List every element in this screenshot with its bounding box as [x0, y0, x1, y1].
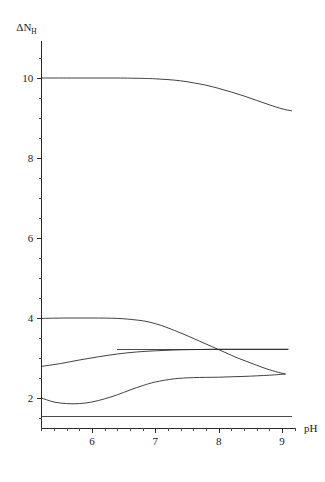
- y-tick-label: 2: [28, 392, 34, 404]
- chart-plot-area: 2468106789ΔNHpH: [0, 0, 325, 482]
- axes-group: [41, 41, 296, 428]
- y-axis-label-base: ΔN: [16, 21, 31, 33]
- ticks-group: [37, 59, 295, 434]
- x-tick-label: 9: [279, 435, 285, 447]
- y-tick-label: 10: [22, 72, 34, 84]
- data-series-curve-top: [41, 78, 291, 111]
- x-tick-label: 6: [89, 435, 95, 447]
- y-tick-label: 4: [28, 312, 34, 324]
- axis-labels-group: 2468106789ΔNHpH: [16, 21, 317, 446]
- y-tick-label: 6: [28, 232, 34, 244]
- chart-figure: 2468106789ΔNHpH: [0, 0, 325, 482]
- x-tick-label: 8: [216, 435, 222, 447]
- y-axis-label-subscript: H: [31, 27, 37, 36]
- data-curves-group: [41, 78, 291, 416]
- x-axis-label: pH: [304, 422, 318, 434]
- data-series-curve-upper-mid-declining: [41, 318, 285, 374]
- x-tick-label: 7: [153, 435, 159, 447]
- y-tick-label: 8: [28, 152, 34, 164]
- data-series-curve-middle-rising: [41, 349, 288, 366]
- y-axis-label: ΔNH: [16, 21, 37, 36]
- data-series-curve-lower-dip-rise: [41, 374, 285, 404]
